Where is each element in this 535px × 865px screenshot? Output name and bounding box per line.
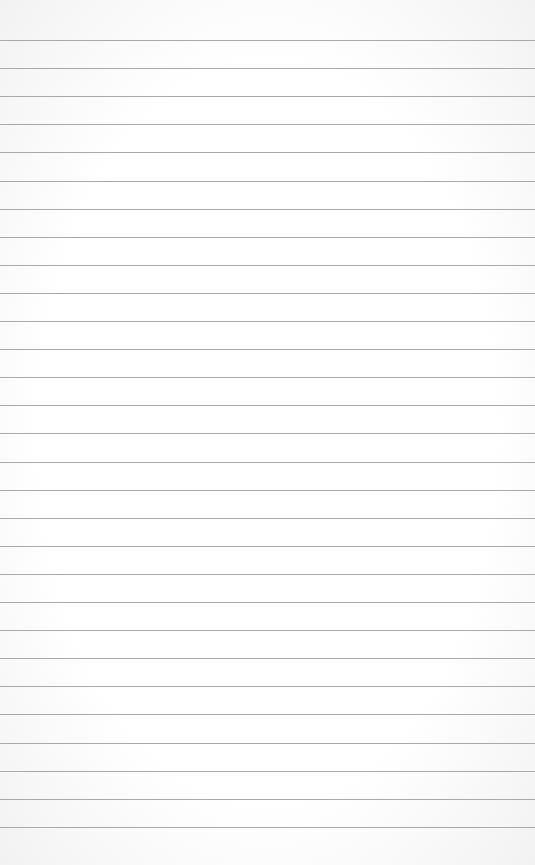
ruled-line [0,602,535,603]
ruled-line [0,321,535,322]
ruled-line [0,771,535,772]
ruled-line [0,349,535,350]
ruled-line [0,237,535,238]
ruled-line [0,124,535,125]
ruled-line [0,181,535,182]
ruled-line [0,799,535,800]
ruled-line [0,96,535,97]
ruled-line [0,377,535,378]
ruled-line [0,68,535,69]
ruled-line [0,40,535,41]
ruled-line [0,293,535,294]
lined-paper [0,0,535,865]
ruled-line [0,743,535,744]
ruled-line [0,546,535,547]
ruled-line [0,433,535,434]
ruled-line [0,462,535,463]
ruled-line [0,490,535,491]
ruled-line [0,630,535,631]
ruled-line [0,405,535,406]
ruled-line [0,518,535,519]
ruled-line [0,686,535,687]
ruled-line [0,152,535,153]
ruled-line [0,265,535,266]
ruled-line [0,574,535,575]
ruled-line [0,714,535,715]
ruled-line [0,827,535,828]
ruled-line [0,658,535,659]
ruled-line [0,209,535,210]
